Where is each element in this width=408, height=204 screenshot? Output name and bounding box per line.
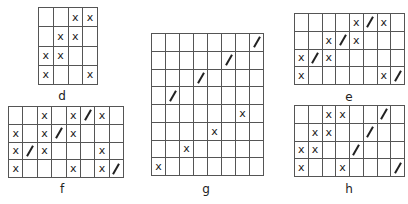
- cross-symbol: x: [57, 30, 64, 43]
- empty-cell: [180, 105, 194, 123]
- empty-cell: [222, 105, 236, 123]
- cross-stitch-icon: x: [67, 125, 81, 143]
- empty-cell: [83, 47, 98, 66]
- empty-cell: [222, 141, 236, 159]
- cross-symbol: x: [12, 144, 19, 157]
- cross-stitch-icon: x: [295, 50, 309, 68]
- cross-symbol: x: [87, 68, 94, 81]
- cross-stitch-icon: x: [69, 27, 84, 46]
- slash-icon: [197, 72, 205, 83]
- empty-cell: [236, 158, 250, 176]
- empty-cell: [336, 142, 350, 160]
- cross-symbol: x: [211, 125, 218, 138]
- empty-cell: [250, 105, 264, 123]
- cross-stitch-icon: x: [39, 47, 54, 66]
- empty-cell: [208, 105, 222, 123]
- cross-symbol: x: [326, 108, 333, 121]
- chart-grid-e: xxxxxxxx: [294, 13, 405, 85]
- slash-stitch-icon: [364, 14, 378, 32]
- empty-cell: [250, 52, 264, 70]
- empty-cell: [378, 142, 392, 160]
- cross-symbol: x: [381, 16, 388, 29]
- empty-cell: [364, 106, 378, 124]
- empty-cell: [222, 87, 236, 105]
- cross-symbol: x: [41, 109, 48, 122]
- empty-cell: [250, 87, 264, 105]
- cross-symbol: x: [326, 34, 333, 47]
- cross-stitch-icon: x: [39, 66, 54, 85]
- empty-cell: [166, 34, 180, 52]
- cross-stitch-icon: x: [38, 107, 52, 125]
- slash-stitch-icon: [110, 160, 124, 178]
- empty-cell: [152, 70, 166, 88]
- empty-cell: [378, 32, 392, 50]
- slash-icon: [55, 127, 63, 138]
- empty-cell: [236, 87, 250, 105]
- cross-stitch-icon: x: [309, 142, 323, 160]
- slash-stitch-icon: [391, 159, 405, 177]
- cross-symbol: x: [70, 162, 77, 175]
- cross-symbol: x: [99, 144, 106, 157]
- empty-cell: [336, 124, 350, 142]
- grid-label-e: e: [345, 90, 352, 104]
- cross-symbol: x: [381, 69, 388, 82]
- empty-cell: [323, 67, 337, 85]
- empty-cell: [166, 105, 180, 123]
- chart-grid-f: xxxxxxxxxxxx: [8, 106, 124, 178]
- empty-cell: [350, 67, 364, 85]
- empty-cell: [38, 160, 52, 178]
- slash-stitch-icon: [391, 67, 405, 85]
- cross-stitch-icon: x: [54, 27, 69, 46]
- cross-symbol: x: [239, 107, 246, 120]
- slash-stitch-icon: [336, 32, 350, 50]
- empty-cell: [391, 50, 405, 68]
- empty-cell: [23, 107, 37, 125]
- slash-stitch-icon: [250, 34, 264, 52]
- slash-icon: [26, 145, 34, 156]
- empty-cell: [194, 105, 208, 123]
- slash-stitch-icon: [194, 70, 208, 88]
- empty-cell: [194, 34, 208, 52]
- empty-cell: [180, 123, 194, 141]
- empty-cell: [364, 159, 378, 177]
- cross-symbol: x: [298, 51, 305, 64]
- slash-icon: [225, 54, 233, 65]
- cross-stitch-icon: x: [336, 106, 350, 124]
- cross-symbol: x: [326, 126, 333, 139]
- grid-label-g: g: [202, 182, 210, 196]
- empty-cell: [152, 34, 166, 52]
- cross-stitch-icon: x: [180, 141, 194, 159]
- empty-cell: [236, 141, 250, 159]
- empty-cell: [152, 141, 166, 159]
- cross-symbol: x: [298, 143, 305, 156]
- slash-stitch-icon: [52, 125, 66, 143]
- empty-cell: [236, 52, 250, 70]
- empty-cell: [110, 143, 124, 161]
- empty-cell: [236, 70, 250, 88]
- empty-cell: [69, 47, 84, 66]
- cross-symbol: x: [43, 49, 50, 62]
- empty-cell: [222, 34, 236, 52]
- cross-stitch-icon: x: [295, 67, 309, 85]
- slash-icon: [112, 163, 120, 174]
- empty-cell: [222, 158, 236, 176]
- chart-grid-h: xxxxxxxx: [294, 105, 405, 177]
- empty-cell: [350, 106, 364, 124]
- cross-symbol: x: [43, 68, 50, 81]
- empty-cell: [309, 32, 323, 50]
- empty-cell: [208, 87, 222, 105]
- empty-cell: [81, 143, 95, 161]
- empty-cell: [39, 27, 54, 46]
- cross-stitch-icon: x: [323, 124, 337, 142]
- empty-cell: [23, 125, 37, 143]
- cross-stitch-icon: x: [336, 159, 350, 177]
- cross-symbol: x: [12, 162, 19, 175]
- empty-cell: [350, 50, 364, 68]
- empty-cell: [336, 67, 350, 85]
- cross-stitch-icon: x: [9, 143, 23, 161]
- slash-icon: [339, 34, 347, 45]
- slash-icon: [366, 17, 374, 28]
- cross-stitch-icon: x: [378, 14, 392, 32]
- empty-cell: [391, 106, 405, 124]
- cross-stitch-icon: x: [323, 50, 337, 68]
